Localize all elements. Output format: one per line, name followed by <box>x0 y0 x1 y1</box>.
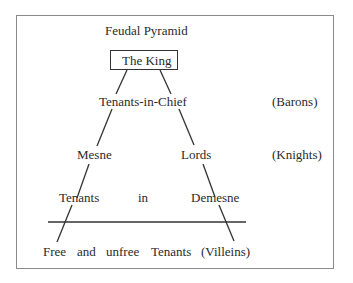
diagram-title: Feudal Pyramid <box>105 23 188 38</box>
tenants-label: Tenants <box>59 190 99 205</box>
base-word-tenants: Tenants <box>151 244 191 259</box>
mesne-label: Mesne <box>77 147 112 162</box>
edge-king-right <box>160 70 171 94</box>
edge-demesne-villeins <box>219 205 234 241</box>
in-label: in <box>138 190 148 205</box>
base-word-unfree: unfree <box>106 244 139 259</box>
edge-chief-lords <box>179 109 194 145</box>
villeins-label: (Villeins) <box>201 244 250 259</box>
edge-king-left <box>116 70 127 94</box>
lords-label: Lords <box>181 147 211 162</box>
pyramid-lines <box>0 0 353 283</box>
barons-label: (Barons) <box>272 94 318 109</box>
apex-label: The King <box>122 53 171 68</box>
knights-label: (Knights) <box>272 147 322 162</box>
demesne-label: Demesne <box>191 190 239 205</box>
base-word-free: Free <box>43 244 66 259</box>
edge-chief-mesne <box>97 109 112 146</box>
tenants-in-chief-label: Tenants-in-Chief <box>99 94 187 109</box>
base-word-and: and <box>77 244 96 259</box>
edge-tenants-free <box>57 205 72 242</box>
